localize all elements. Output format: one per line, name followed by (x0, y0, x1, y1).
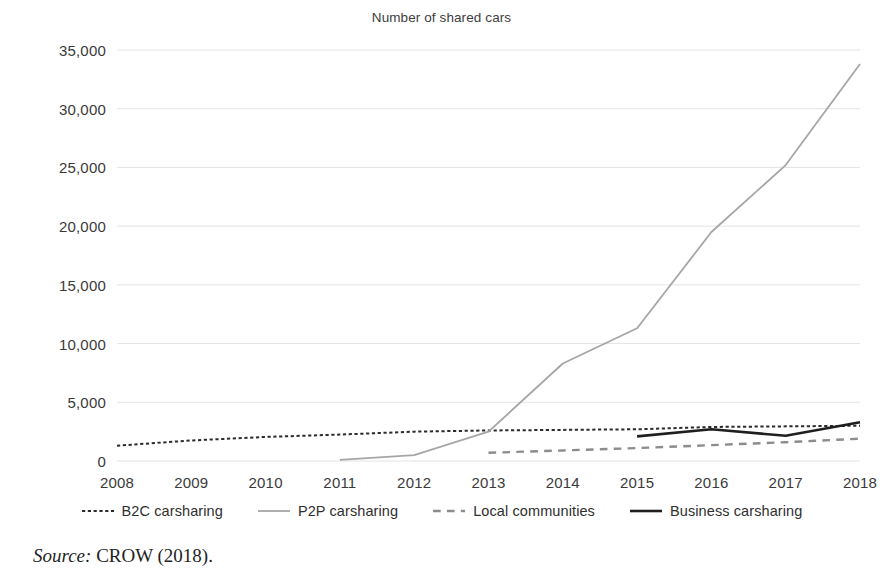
series-line-b2c-carsharing (117, 426, 860, 446)
x-tick-label: 2008 (100, 474, 134, 491)
chart-legend: B2C carsharingP2P carsharingLocal commun… (0, 503, 883, 519)
x-tick-label: 2014 (546, 474, 580, 491)
y-tick-label: 0 (20, 453, 106, 470)
y-tick-label: 30,000 (20, 100, 106, 117)
legend-label: Business carsharing (670, 503, 802, 519)
legend-label: Local communities (473, 503, 595, 519)
chart-figure: Number of shared cars 05,00010,00015,000… (0, 0, 883, 584)
source-citation: CROW (2018). (96, 545, 213, 566)
solid-dark-line-icon (629, 505, 663, 517)
x-tick-label: 2016 (694, 474, 728, 491)
x-tick-label: 2010 (249, 474, 283, 491)
x-tick-label: 2015 (620, 474, 654, 491)
dotted-dark-line-icon (81, 505, 115, 517)
legend-label: B2C carsharing (122, 503, 223, 519)
legend-label: P2P carsharing (298, 503, 398, 519)
gridlines (117, 50, 860, 461)
source-caption: Source: CROW (2018). (33, 545, 213, 567)
legend-item-p2p-carsharing[interactable]: P2P carsharing (257, 503, 398, 519)
y-tick-label: 25,000 (20, 159, 106, 176)
y-tick-label: 15,000 (20, 276, 106, 293)
y-tick-label: 5,000 (20, 394, 106, 411)
legend-item-local-communities[interactable]: Local communities (432, 503, 595, 519)
x-tick-label: 2013 (471, 474, 505, 491)
series-lines (117, 64, 860, 460)
series-line-business-carsharing (637, 422, 860, 436)
x-tick-label: 2018 (843, 474, 877, 491)
source-label: Source: (33, 545, 91, 566)
y-tick-label: 20,000 (20, 218, 106, 235)
plot-area (0, 0, 883, 584)
y-tick-label: 10,000 (20, 335, 106, 352)
x-tick-label: 2012 (397, 474, 431, 491)
series-line-local-communities (489, 439, 861, 453)
x-tick-label: 2009 (174, 474, 208, 491)
x-tick-label: 2017 (769, 474, 803, 491)
y-tick-label: 35,000 (20, 42, 106, 59)
solid-light-line-icon (257, 505, 291, 517)
legend-item-business-carsharing[interactable]: Business carsharing (629, 503, 802, 519)
legend-item-b2c-carsharing[interactable]: B2C carsharing (81, 503, 223, 519)
chart-canvas (0, 0, 883, 584)
series-line-p2p-carsharing (340, 64, 860, 460)
dashed-gray-line-icon (432, 505, 466, 517)
x-tick-label: 2011 (323, 474, 356, 491)
